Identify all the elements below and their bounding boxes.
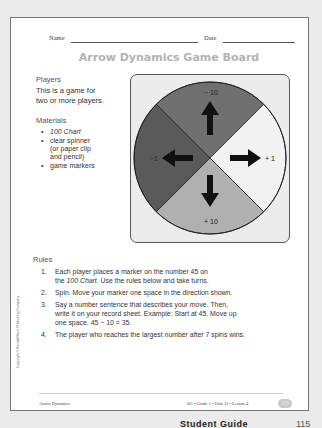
label-plus-1: + 1 (265, 155, 275, 162)
rule-text-part: the (55, 277, 67, 284)
rule-number: 1. (41, 267, 47, 276)
rule-text: Each player places a marker on the numbe… (55, 267, 301, 276)
student-guide-label: Student Guide (180, 419, 248, 428)
rules-item: 4. The player who reaches the largest nu… (41, 330, 301, 339)
materials-item-text: 100 Chart (50, 128, 81, 135)
page-number-badge: 115 (278, 399, 292, 408)
players-heading: Players (36, 75, 61, 84)
players-text: This is a game for two or more players. (36, 86, 104, 105)
date-label: Date (204, 34, 216, 41)
rule-text-part: . Use the rules below and take turns. (97, 277, 209, 284)
rule-number: 2. (41, 288, 47, 297)
materials-item-text: game markers (50, 162, 95, 169)
label-minus-10: − 10 (204, 89, 218, 96)
players-text-line: This is a game for (36, 86, 104, 96)
rules-item: 3. Say a number sentence that describes … (41, 300, 301, 327)
footer-title: Arrow Dynamics (39, 401, 70, 406)
players-text-line: two or more players. (36, 96, 104, 106)
date-field-line[interactable] (223, 42, 295, 43)
materials-item-text: and pencil) (50, 153, 95, 161)
rule-text: The player who reaches the largest numbe… (55, 330, 301, 339)
rule-number: 3. (41, 300, 47, 309)
worksheet-page: Name Date Arrow Dynamics Game Board Play… (10, 17, 309, 411)
materials-item: 100 Chart (41, 128, 95, 136)
spinner-board: − 10 + 1 + 10 −1 (130, 74, 290, 243)
rules-list: 1. Each player places a marker on the nu… (41, 267, 301, 342)
rule-number: 4. (41, 330, 47, 339)
label-plus-10: + 10 (204, 218, 218, 225)
footer-lesson-info: SG • Grade 1 • Unit 11 • Lesson 4 (187, 401, 248, 406)
materials-list: 100 Chart clear spinner (or paper clip a… (41, 128, 95, 171)
rule-text: the 100 Chart. Use the rules below and t… (55, 276, 301, 285)
rule-text: write it on your record sheet. Example: … (55, 309, 301, 318)
rules-item: 1. Each player places a marker on the nu… (41, 267, 301, 285)
name-field-line[interactable] (71, 42, 198, 43)
rules-item: 2. Spin. Move your marker one space in t… (41, 288, 301, 297)
materials-item-text: (or paper clip (50, 145, 95, 153)
materials-item-text: clear spinner (50, 137, 95, 145)
rules-heading: Rules (33, 255, 52, 264)
rule-text: Spin. Move your marker one space in the … (55, 288, 301, 297)
materials-heading: Materials (36, 116, 66, 125)
rule-text-part: 100 Chart (67, 277, 97, 284)
rule-text: one space. 45 − 10 = 35. (55, 318, 301, 327)
name-label: Name (49, 34, 65, 41)
copyright-notice: Copyright © Kendall/Hunt Publishing Comp… (16, 277, 20, 387)
page-title: Arrow Dynamics Game Board (49, 51, 289, 64)
rule-text: Say a number sentence that describes you… (55, 300, 301, 309)
name-date-row: Name Date (49, 34, 295, 46)
materials-item: game markers (41, 162, 95, 170)
materials-item: clear spinner (or paper clip and pencil) (41, 137, 95, 162)
footer-divider (39, 393, 283, 394)
student-guide-page-number: 115 (296, 419, 310, 428)
spinner-wheel: − 10 + 1 + 10 −1 (131, 75, 291, 244)
label-minus-1: −1 (150, 155, 158, 162)
